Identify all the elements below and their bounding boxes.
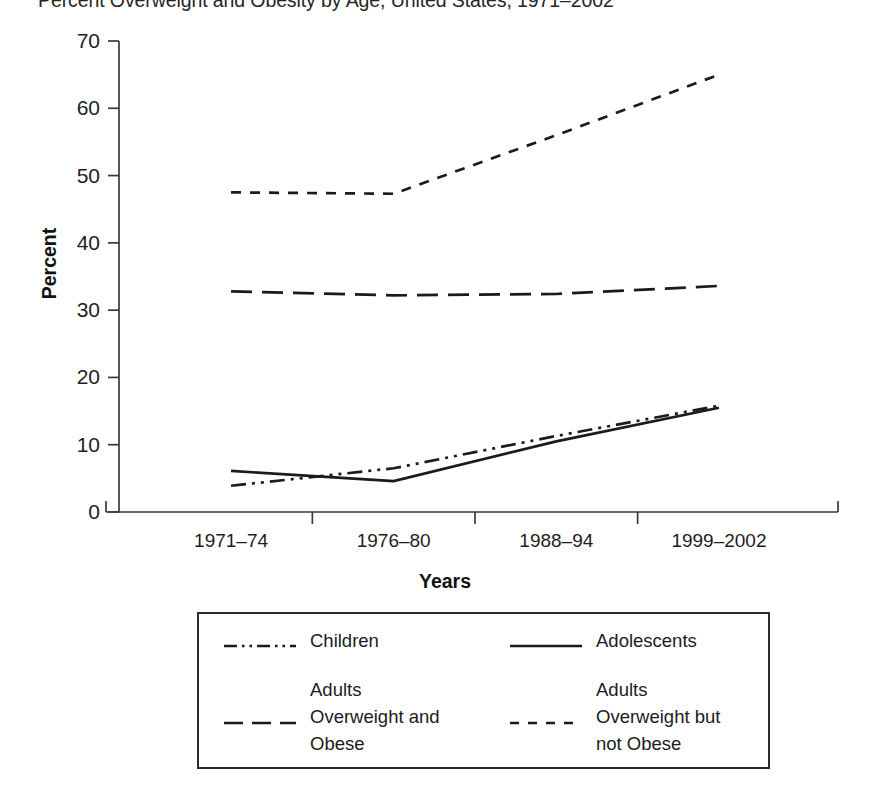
chart-legend: Children Adolescents Adults Overweight a… bbox=[197, 612, 770, 769]
y-axis-tick-label: 30 bbox=[56, 299, 100, 320]
legend-label: Adults Overweight and Obese bbox=[310, 676, 440, 757]
y-axis-tick-label: 60 bbox=[56, 97, 100, 118]
legend-entry-children: Children bbox=[199, 627, 485, 656]
legend-swatch-short-dash-icon bbox=[510, 713, 582, 733]
legend-entry-adults-overweight-but-not-obese: Adults Overweight but not Obese bbox=[485, 676, 771, 757]
legend-swatch-solid-icon bbox=[510, 636, 582, 656]
chart-canvas bbox=[0, 0, 886, 600]
x-axis-tick-label: 1999–2002 bbox=[624, 531, 814, 550]
chart-series-group bbox=[231, 75, 719, 486]
y-axis-title: Percent bbox=[38, 204, 61, 324]
legend-label: Adults Overweight but not Obese bbox=[596, 676, 720, 757]
legend-swatch-long-dash-icon bbox=[224, 713, 296, 733]
chart-series-line bbox=[231, 75, 719, 194]
chart-series-line bbox=[231, 406, 719, 486]
legend-label: Children bbox=[310, 627, 379, 654]
x-axis-tick-label: 1988–94 bbox=[461, 531, 651, 550]
y-axis-tick-label: 20 bbox=[56, 366, 100, 387]
x-axis-tick-label: 1976–80 bbox=[299, 531, 489, 550]
chart-series-line bbox=[231, 286, 719, 295]
legend-label: Adolescents bbox=[596, 627, 697, 654]
y-axis-tick-label: 40 bbox=[56, 232, 100, 253]
legend-swatch-dash-dot-dot-icon bbox=[224, 636, 296, 656]
legend-entry-adults-overweight-and-obese: Adults Overweight and Obese bbox=[199, 676, 485, 757]
y-axis-tick-label: 50 bbox=[56, 165, 100, 186]
x-axis-tick-label: 1971–74 bbox=[136, 531, 326, 550]
y-axis-tick-label: 70 bbox=[56, 30, 100, 51]
x-axis-title: Years bbox=[345, 570, 545, 593]
y-axis-tick-label: 0 bbox=[56, 501, 100, 522]
y-axis-tick-label: 10 bbox=[56, 434, 100, 455]
chart-plot-area: 010203040506070 1971–741976–801988–94199… bbox=[0, 0, 886, 600]
legend-row: Children Adolescents bbox=[199, 627, 772, 656]
legend-row: Adults Overweight and Obese Adults Overw… bbox=[199, 676, 772, 757]
legend-entry-adolescents: Adolescents bbox=[485, 627, 771, 656]
